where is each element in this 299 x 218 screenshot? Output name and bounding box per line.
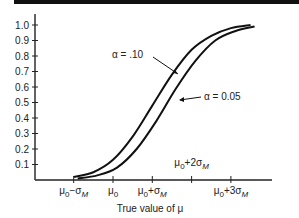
x-tick-label: μ0 [108, 185, 119, 199]
x-tick-label: μ0−σM [59, 185, 88, 199]
x-tick-label: μ0+σM [138, 185, 167, 199]
y-tick-label: 0.8 [15, 51, 29, 62]
y-tick-label: 0.3 [15, 128, 29, 139]
y-tick-label: 0.9 [15, 35, 29, 46]
y-tick-label: 0.5 [15, 97, 29, 108]
curve-1 [78, 27, 255, 179]
y-tick-label: 1.0 [15, 20, 29, 31]
annotation-alpha-05: α = 0.05 [204, 91, 241, 102]
y-tick-label: 0.7 [15, 66, 29, 77]
x-tick-label: μ0+3σM [214, 185, 249, 199]
power-curve-chart: 0.10.20.30.40.50.60.70.80.91.0μ0−σMμ0μ0+… [0, 0, 299, 218]
x-tick-label: μ0+2σM [174, 157, 209, 171]
x-axis-label: True value of μ [117, 203, 184, 214]
y-tick-label: 0.2 [15, 144, 29, 155]
annotation-alpha-10: α = .10 [112, 49, 144, 60]
y-tick-label: 0.6 [15, 82, 29, 93]
y-tick-label: 0.4 [15, 113, 29, 124]
axes: 0.10.20.30.40.50.60.70.80.91.0μ0−σMμ0μ0+… [15, 14, 272, 199]
y-tick-label: 0.1 [15, 159, 29, 170]
